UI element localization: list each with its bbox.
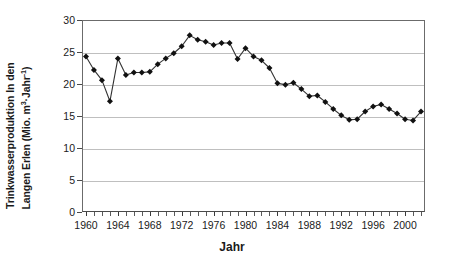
y-tick-label-15: 15 xyxy=(53,111,75,122)
x-tick-1968 xyxy=(150,212,151,216)
x-tick-1965 xyxy=(126,212,127,216)
x-tick-2002 xyxy=(421,212,422,216)
x-tick-1980 xyxy=(246,212,247,216)
x-tick-2000 xyxy=(405,212,406,216)
data-point-1998 xyxy=(386,106,392,112)
x-tick-1961 xyxy=(94,212,95,216)
x-tick-1973 xyxy=(190,212,191,216)
data-point-1975 xyxy=(203,39,209,45)
x-tick-1992 xyxy=(341,212,342,216)
x-tick-1960 xyxy=(86,212,87,216)
series-line xyxy=(86,35,421,120)
x-tick-1975 xyxy=(206,212,207,216)
data-point-1967 xyxy=(139,69,145,75)
data-series xyxy=(82,20,425,212)
data-point-1985 xyxy=(282,82,288,88)
x-tick-1976 xyxy=(214,212,215,216)
x-tick-1983 xyxy=(269,212,270,216)
data-point-1978 xyxy=(227,40,233,46)
x-tick-1964 xyxy=(118,212,119,216)
x-tick-label-2000: 2000 xyxy=(385,219,425,231)
y-tick-label-5: 5 xyxy=(53,175,75,186)
x-axis-title: Jahr xyxy=(0,240,464,254)
y-tick-label-25: 25 xyxy=(53,47,75,58)
x-tick-1963 xyxy=(110,212,111,216)
x-tick-1978 xyxy=(230,212,231,216)
data-point-1997 xyxy=(378,101,384,107)
data-point-1965 xyxy=(123,72,129,78)
y-axis-title-line-2: Langen Erlen (Mio. m3·Jahr-1) xyxy=(19,0,33,209)
x-tick-1989 xyxy=(317,212,318,216)
data-point-1966 xyxy=(131,69,137,75)
y-tick-label-20: 20 xyxy=(53,79,75,90)
data-point-1964 xyxy=(115,55,121,61)
y-axis-title-line-2-pre: Langen Erlen (Mio. m xyxy=(20,105,32,209)
x-tick-1974 xyxy=(198,212,199,216)
x-tick-1998 xyxy=(389,212,390,216)
y-tick-label-0: 0 xyxy=(53,207,75,218)
x-tick-1977 xyxy=(222,212,223,216)
x-tick-1985 xyxy=(285,212,286,216)
data-point-1977 xyxy=(219,40,225,46)
y-tick-label-10: 10 xyxy=(53,143,75,154)
series-markers xyxy=(83,32,424,123)
x-tick-1982 xyxy=(261,212,262,216)
data-point-1963 xyxy=(107,98,113,104)
x-tick-1997 xyxy=(381,212,382,216)
x-tick-2001 xyxy=(413,212,414,216)
y-axis-title-line-1: Trinkwasserproduktion In den xyxy=(4,0,16,209)
x-tick-1990 xyxy=(325,212,326,216)
y-axis-title-line-2-post: ) xyxy=(20,66,32,69)
chart-figure: Trinkwasserproduktion In den Langen Erle… xyxy=(0,0,464,270)
data-point-1996 xyxy=(370,103,376,109)
data-point-1960 xyxy=(83,53,89,59)
x-tick-1994 xyxy=(357,212,358,216)
data-point-1993 xyxy=(346,117,352,123)
x-tick-1970 xyxy=(166,212,167,216)
y-tick-0 xyxy=(77,212,82,213)
x-tick-1962 xyxy=(102,212,103,216)
x-tick-1995 xyxy=(365,212,366,216)
x-tick-1999 xyxy=(397,212,398,216)
x-tick-1981 xyxy=(254,212,255,216)
x-tick-1969 xyxy=(158,212,159,216)
x-tick-1993 xyxy=(349,212,350,216)
y-axis-title: Trinkwasserproduktion In den Langen Erle… xyxy=(0,0,52,215)
x-tick-1986 xyxy=(293,212,294,216)
data-point-1984 xyxy=(274,80,280,86)
data-point-1974 xyxy=(195,37,201,43)
x-tick-1984 xyxy=(277,212,278,216)
x-tick-1979 xyxy=(238,212,239,216)
x-tick-1967 xyxy=(142,212,143,216)
x-tick-1996 xyxy=(373,212,374,216)
y-tick-label-30: 30 xyxy=(53,15,75,26)
x-tick-1987 xyxy=(301,212,302,216)
data-point-1976 xyxy=(211,42,217,48)
x-tick-1991 xyxy=(333,212,334,216)
x-tick-1971 xyxy=(174,212,175,216)
y-axis-title-line-2-mid: ·Jahr xyxy=(20,76,32,101)
x-tick-1988 xyxy=(309,212,310,216)
x-tick-1972 xyxy=(182,212,183,216)
x-tick-1966 xyxy=(134,212,135,216)
